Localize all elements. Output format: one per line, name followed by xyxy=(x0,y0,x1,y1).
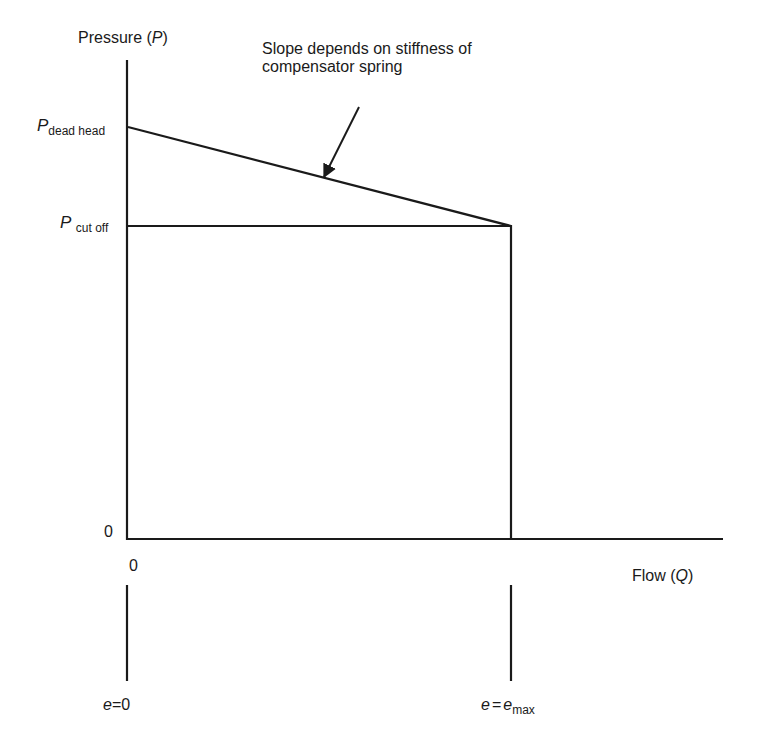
eccentricity-max-label: e=emax xyxy=(481,697,535,713)
diagram-canvas xyxy=(0,0,758,744)
e-symbol: e xyxy=(103,696,112,713)
y-axis-title-symbol: P xyxy=(152,29,163,46)
x-axis-title-close: ) xyxy=(688,567,693,584)
e-symbol: e xyxy=(481,696,490,713)
y-axis-title-close: ) xyxy=(162,29,167,46)
p-deadhead-subscript: dead head xyxy=(48,124,105,138)
x-axis-title-symbol: Q xyxy=(676,567,688,584)
p-cutoff-subscript: cut off xyxy=(76,221,108,235)
x-axis-zero-label: 0 xyxy=(129,558,138,574)
y-axis-title: Pressure (P) xyxy=(78,30,168,46)
slope-line xyxy=(128,127,511,226)
slope-annotation: Slope depends on stiffness of compensato… xyxy=(262,40,522,76)
p-deadhead-symbol: P xyxy=(37,116,48,135)
p-deadhead-label: Pdead head xyxy=(37,117,105,134)
equals-sign: = xyxy=(112,696,121,713)
annotation-arrow xyxy=(324,107,359,177)
e-max-subscript: max xyxy=(512,703,535,717)
e-value: 0 xyxy=(121,696,130,713)
x-axis-title: Flow (Q) xyxy=(632,568,693,584)
e-max-symbol: e xyxy=(503,696,512,713)
p-cutoff-label: P cut off xyxy=(60,214,108,231)
x-axis-title-text: Flow ( xyxy=(632,567,676,584)
eccentricity-zero-label: e=0 xyxy=(103,697,130,713)
y-axis-zero-label: 0 xyxy=(104,524,113,540)
equals-sign: = xyxy=(492,696,501,713)
p-cutoff-symbol: P xyxy=(60,213,71,232)
y-axis-title-text: Pressure ( xyxy=(78,29,152,46)
